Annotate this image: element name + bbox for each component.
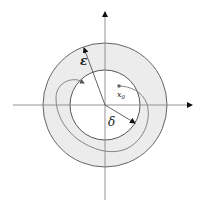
delta-label: δ xyxy=(108,115,115,129)
initial-point-dot xyxy=(117,84,121,88)
epsilon-label: ε xyxy=(80,54,88,68)
x0-label-sub: 0 xyxy=(122,94,126,100)
stability-diagram: ε δ x0 xyxy=(0,0,205,213)
